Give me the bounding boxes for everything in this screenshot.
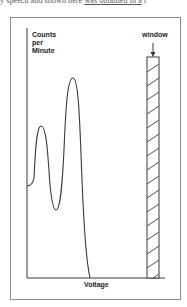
window-band <box>147 57 159 282</box>
y-axis-label-line1: Counts <box>32 31 56 39</box>
y-axis-label-line3: Minute <box>32 47 56 55</box>
x-axis-label: Voltage <box>84 281 109 289</box>
y-axis-label-line2: per <box>32 39 56 47</box>
spectrum-diagram <box>0 0 187 307</box>
arrow-head-icon <box>151 52 156 57</box>
y-axis-label: Counts per Minute <box>32 31 56 55</box>
spectrum-curve <box>27 78 90 278</box>
window-label: window <box>142 31 168 39</box>
